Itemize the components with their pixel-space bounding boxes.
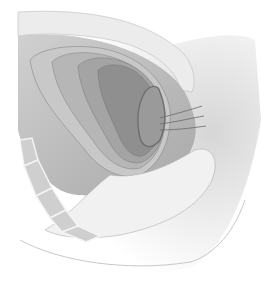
anatomical-illustration [0, 0, 261, 283]
pelvic-cross-section [0, 0, 261, 283]
